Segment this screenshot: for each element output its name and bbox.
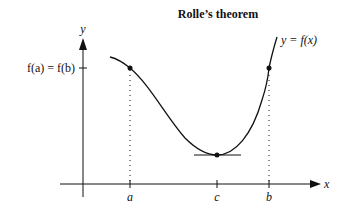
diagram-title: Rolle’s theorem: [178, 7, 258, 21]
function-curve: [110, 37, 277, 155]
point-c: [215, 153, 220, 158]
point-a: [128, 66, 133, 71]
x-axis-arrow-icon: [310, 180, 321, 188]
rolles-theorem-diagram: Rolle’s theorem y x f(a) = f(b) a c b y …: [0, 0, 353, 214]
x-tick-label-a: a: [127, 190, 133, 204]
y-axis-label: y: [79, 22, 86, 36]
x-axis-label: x: [323, 177, 330, 191]
x-tick-label-b: b: [266, 190, 272, 204]
y-tick-label: f(a) = f(b): [27, 61, 75, 75]
point-b: [267, 66, 272, 71]
curve-label: y = f(x): [280, 33, 317, 47]
x-tick-label-c: c: [214, 190, 220, 204]
y-axis-arrow-icon: [79, 38, 87, 50]
